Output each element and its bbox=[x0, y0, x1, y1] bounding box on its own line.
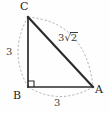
side-length-label-ba: 3 bbox=[54, 98, 60, 108]
radical-expression: 3√2 bbox=[58, 32, 78, 43]
vertex-label-b: B bbox=[13, 90, 21, 101]
side-length-label-ca: 3√2 bbox=[58, 32, 78, 43]
vertex-label-c: C bbox=[20, 1, 28, 12]
geometry-figure: C B A 3 3 3√2 bbox=[0, 0, 110, 114]
arc-side-bc bbox=[18, 17, 28, 87]
arc-side-ba bbox=[28, 87, 93, 97]
radicand: 2 bbox=[70, 32, 77, 43]
right-angle-marker bbox=[28, 81, 34, 87]
side-length-label-bc: 3 bbox=[6, 47, 12, 57]
vertex-label-a: A bbox=[95, 84, 103, 95]
